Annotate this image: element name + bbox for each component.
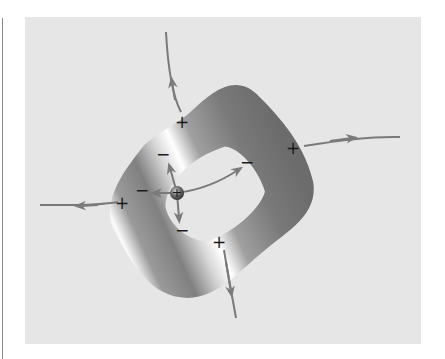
field-line-left <box>40 202 118 205</box>
field-line-top-arrow <box>172 82 175 100</box>
field-line-top <box>166 32 181 112</box>
inner-charge-left: − <box>135 180 149 200</box>
central-charge-sign: + <box>172 185 183 200</box>
inner-charge-top: − <box>156 144 170 164</box>
inner-charge-right: − <box>240 152 254 172</box>
outer-charge-bottom: + <box>212 232 226 252</box>
inner-charge-bottom: − <box>175 220 189 240</box>
field-diagram: + + + + + − − − − <box>0 0 445 359</box>
outer-charge-right: + <box>286 138 300 158</box>
outer-charge-top: + <box>175 112 189 132</box>
field-line-left-arrow <box>80 205 98 206</box>
field-line-inner-right <box>177 170 238 193</box>
outer-charge-left: + <box>115 193 129 213</box>
central-charge: + <box>170 185 184 200</box>
